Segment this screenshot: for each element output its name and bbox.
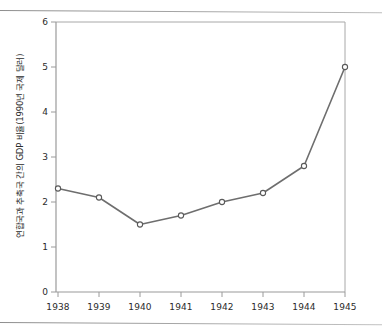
x-tick-label-1943: 1943 xyxy=(243,302,283,312)
y-tick-label-3: 3 xyxy=(32,152,48,162)
data-point-1945 xyxy=(342,64,347,69)
data-point-1943 xyxy=(260,190,265,195)
x-tick-label-1944: 1944 xyxy=(284,302,324,312)
x-tick-label-1939: 1939 xyxy=(79,302,119,312)
y-tick-label-1: 1 xyxy=(32,242,48,252)
y-axis-title: 연합국과 추축국 간의 GDP 비율(1990년 국제 달러) xyxy=(13,41,25,251)
line-chart-plot xyxy=(0,0,382,335)
x-tick-label-1940: 1940 xyxy=(120,302,160,312)
y-tick-label-2: 2 xyxy=(32,197,48,207)
data-point-1941 xyxy=(178,213,183,218)
data-point-1939 xyxy=(96,195,101,200)
data-point-1944 xyxy=(301,163,306,168)
data-point-1940 xyxy=(137,222,142,227)
data-point-1938 xyxy=(55,186,60,191)
y-tick-label-4: 4 xyxy=(32,107,48,117)
plot-area-background xyxy=(56,22,345,292)
y-axis-ticks xyxy=(51,22,56,292)
x-tick-label-1941: 1941 xyxy=(161,302,201,312)
x-tick-label-1945: 1945 xyxy=(325,302,365,312)
chart-figure: 0 1 2 3 4 5 6 1938 1939 1940 1941 1942 1… xyxy=(0,0,382,335)
y-tick-label-0: 0 xyxy=(32,287,48,297)
x-tick-label-1938: 1938 xyxy=(38,302,78,312)
y-tick-label-6: 6 xyxy=(32,17,48,27)
x-axis-ticks xyxy=(58,292,345,297)
data-point-1942 xyxy=(219,199,224,204)
y-tick-label-5: 5 xyxy=(32,62,48,72)
x-tick-label-1942: 1942 xyxy=(202,302,242,312)
